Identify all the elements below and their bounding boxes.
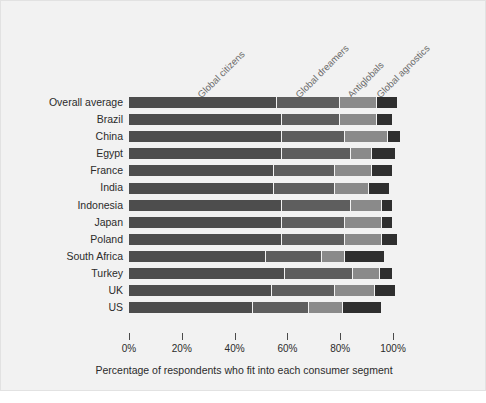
bar-row	[129, 302, 393, 313]
x-axis-caption: Percentage of respondents who fit into e…	[1, 364, 486, 376]
segment-label-global-agnostics: Global agnostics	[374, 43, 431, 100]
bar-row	[129, 131, 393, 142]
segment-label-global-dreamers: Global dreamers	[293, 43, 350, 100]
bar-segment	[129, 114, 281, 125]
bar-segment	[335, 285, 374, 296]
bar-segment	[129, 183, 273, 194]
bar-segment	[129, 148, 281, 159]
category-label: India	[3, 182, 123, 193]
bar-segment	[277, 97, 339, 108]
plot-area	[129, 97, 393, 327]
bar-segment	[129, 302, 252, 313]
bar-row	[129, 234, 393, 245]
x-tick-label: 100%	[373, 343, 413, 354]
x-tick	[182, 333, 183, 340]
bar-segment	[382, 217, 392, 228]
bar-segment	[335, 165, 371, 176]
x-axis-tick-labels: 0%20%40%60%80%100%	[1, 343, 486, 357]
bar-segment	[282, 200, 350, 211]
bar-segment	[340, 114, 376, 125]
bar-row	[129, 183, 393, 194]
bar-row	[129, 114, 393, 125]
bar-segment	[282, 234, 344, 245]
bar-segment	[282, 114, 339, 125]
bar-row	[129, 165, 393, 176]
x-axis-ticks	[129, 333, 393, 341]
bar-segment	[129, 285, 271, 296]
category-label: UK	[3, 285, 123, 296]
category-label: China	[3, 131, 123, 142]
bar-row	[129, 148, 393, 159]
bar-segment	[129, 165, 273, 176]
bar-segment	[129, 217, 281, 228]
bar-segment	[380, 268, 392, 279]
bar-segment	[129, 200, 281, 211]
category-label: Japan	[3, 217, 123, 228]
bar-segment	[372, 165, 392, 176]
bar-segment	[129, 97, 276, 108]
category-label: Egypt	[3, 148, 123, 159]
bar-segment	[377, 97, 397, 108]
bar-row	[129, 251, 393, 262]
category-label: Turkey	[3, 268, 123, 279]
bar-segment	[345, 234, 381, 245]
bar-segment	[377, 114, 392, 125]
category-label: Indonesia	[3, 200, 123, 211]
bar-row	[129, 217, 393, 228]
bar-segment	[274, 165, 334, 176]
bar-segment	[253, 302, 307, 313]
x-tick-label: 20%	[162, 343, 202, 354]
bar-segment	[375, 285, 395, 296]
x-tick-label: 60%	[267, 343, 307, 354]
bar-segment	[353, 268, 378, 279]
bar-segment	[345, 217, 381, 228]
x-tick-label: 0%	[109, 343, 149, 354]
category-label: Brazil	[3, 114, 123, 125]
segment-label-global-citizens: Global citizens	[195, 49, 246, 100]
bar-segment	[272, 285, 334, 296]
bar-segment	[343, 302, 382, 313]
x-tick	[393, 333, 394, 340]
bar-row	[129, 285, 393, 296]
bar-segment	[282, 217, 344, 228]
bar-segment	[351, 148, 371, 159]
bar-segment	[274, 183, 334, 194]
category-label: South Africa	[3, 251, 123, 262]
bar-segment	[285, 268, 353, 279]
bar-segment	[266, 251, 320, 262]
bar-segment	[129, 131, 281, 142]
x-tick	[235, 333, 236, 340]
bar-row	[129, 268, 393, 279]
category-label: France	[3, 165, 123, 176]
x-tick	[287, 333, 288, 340]
bar-segment	[388, 131, 400, 142]
chart-figure: Global citizens Global dreamers Antiglob…	[0, 0, 486, 391]
bar-segment	[382, 200, 392, 211]
category-label: Overall average	[3, 97, 123, 108]
bar-segment	[382, 234, 397, 245]
segment-annotations: Global citizens Global dreamers Antiglob…	[1, 1, 486, 97]
x-tick	[340, 333, 341, 340]
x-tick-label: 80%	[320, 343, 360, 354]
bar-segment	[372, 148, 395, 159]
category-axis: Overall average Brazil China Egypt Franc…	[1, 97, 123, 327]
bar-segment	[322, 251, 345, 262]
bar-segment	[335, 183, 368, 194]
bar-segment	[345, 131, 386, 142]
category-label: Poland	[3, 234, 123, 245]
bar-segment	[129, 251, 265, 262]
x-tick	[129, 333, 130, 340]
bar-segment	[129, 268, 284, 279]
bar-segment	[369, 183, 389, 194]
bar-row	[129, 200, 393, 211]
bar-segment	[129, 234, 281, 245]
bar-row	[129, 97, 393, 108]
bar-segment	[282, 148, 350, 159]
bar-segment	[282, 131, 344, 142]
bar-segment	[345, 251, 384, 262]
bar-segment	[340, 97, 376, 108]
bar-segment	[309, 302, 342, 313]
bar-segment	[351, 200, 382, 211]
category-label: US	[3, 302, 123, 313]
x-tick-label: 40%	[215, 343, 255, 354]
